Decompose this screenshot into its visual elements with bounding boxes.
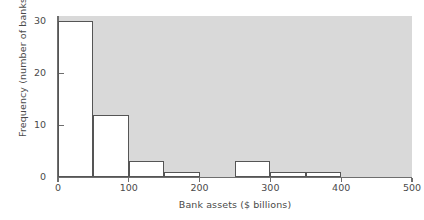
x-tick-label: 400 bbox=[321, 183, 361, 193]
y-tick-label: 0 bbox=[8, 172, 46, 182]
x-tick-label: 0 bbox=[38, 183, 78, 193]
y-tick-mark bbox=[59, 125, 64, 126]
x-axis-title: Bank assets ($ billions) bbox=[58, 199, 412, 210]
histogram-figure: 0102030 0100200300400500 Frequency (numb… bbox=[0, 0, 424, 220]
x-tick-label: 100 bbox=[109, 183, 149, 193]
histogram-bar bbox=[93, 115, 128, 177]
x-tick-label: 300 bbox=[250, 183, 290, 193]
y-axis-title: Frequency (number of banks) bbox=[17, 0, 28, 146]
histogram-bar bbox=[306, 172, 341, 177]
histogram-bar bbox=[270, 172, 305, 177]
histogram-bar bbox=[235, 161, 270, 177]
x-tick-label: 500 bbox=[392, 183, 424, 193]
histogram-bar bbox=[58, 21, 93, 177]
histogram-bar bbox=[129, 161, 164, 177]
histogram-bar bbox=[164, 172, 199, 177]
y-tick-mark bbox=[59, 73, 64, 74]
x-tick-label: 200 bbox=[180, 183, 220, 193]
